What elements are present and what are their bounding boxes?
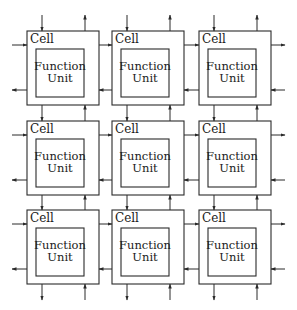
cell-1-2: CellFunctionUnit [199,121,271,195]
cell-label: Cell [30,211,54,225]
cell-label: Cell [202,32,226,46]
function-unit-label-line2: Unit [47,250,73,264]
cell-label: Cell [115,211,139,225]
cell-label: Cell [115,32,139,46]
function-unit-label-line2: Unit [219,71,245,85]
function-unit-label-line2: Unit [132,161,158,175]
function-unit-label-line2: Unit [132,250,158,264]
cell-label: Cell [202,211,226,225]
cell-label: Cell [30,32,54,46]
cell-2-2: CellFunctionUnit [199,210,271,284]
cell-0-1: CellFunctionUnit [112,31,184,105]
function-unit-label-line2: Unit [219,161,245,175]
function-unit-label-line2: Unit [47,161,73,175]
cell-label: Cell [30,122,54,136]
cell-2-0: CellFunctionUnit [27,210,99,284]
cell-0-2: CellFunctionUnit [199,31,271,105]
cell-1-1: CellFunctionUnit [112,121,184,195]
cell-label: Cell [202,122,226,136]
cell-1-0: CellFunctionUnit [27,121,99,195]
cell-0-0: CellFunctionUnit [27,31,99,105]
cells-layer: CellFunctionUnitCellFunctionUnitCellFunc… [27,31,271,284]
cell-2-1: CellFunctionUnit [112,210,184,284]
function-unit-label-line2: Unit [132,71,158,85]
function-unit-label-line2: Unit [47,71,73,85]
cell-label: Cell [115,122,139,136]
function-unit-label-line2: Unit [219,250,245,264]
systolic-array-diagram: CellFunctionUnitCellFunctionUnitCellFunc… [0,0,297,310]
